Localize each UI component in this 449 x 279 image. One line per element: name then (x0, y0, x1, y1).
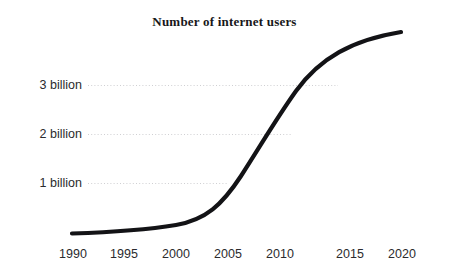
plot-area: 3 billion 2 billion 1 billion 1990 1995 … (0, 0, 449, 279)
x-tick-label-2000: 2000 (146, 248, 206, 261)
x-tick-label-2020: 2020 (372, 248, 432, 261)
x-tick-label-2005: 2005 (198, 248, 258, 261)
y-tick-label-3-billion: 3 billion (0, 79, 82, 92)
y-tick-label-2-billion: 2 billion (0, 128, 82, 141)
x-tick-label-1995: 1995 (94, 248, 154, 261)
y-tick-label-1-billion: 1 billion (0, 177, 82, 190)
x-tick-label-2015: 2015 (320, 248, 380, 261)
series-line-internet-users (72, 32, 401, 234)
internet-users-chart: Number of internet users 3 billion 2 bil… (0, 0, 449, 279)
x-tick-label-2010: 2010 (250, 248, 310, 261)
